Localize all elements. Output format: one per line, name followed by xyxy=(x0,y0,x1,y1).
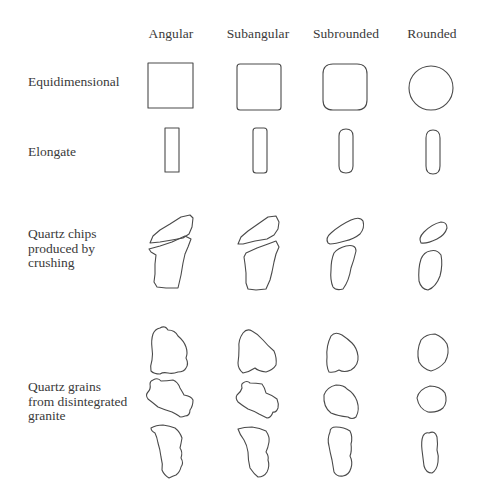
grain-outline-granite-angular xyxy=(151,327,188,374)
grain-outline-equidimensional-angular xyxy=(148,63,193,108)
grain-outline-granite-subangular xyxy=(238,427,269,477)
grain-outline-granite-rounded xyxy=(417,386,446,412)
grain-outline-elongate-subangular xyxy=(253,128,267,173)
grain-outline-equidimensional-rounded xyxy=(409,66,453,110)
grain-outline-chips-angular xyxy=(149,236,191,288)
grain-outline-granite-subrounded xyxy=(324,385,358,419)
grain-outline-chips-angular xyxy=(150,215,193,243)
grain-outline-granite-subrounded xyxy=(328,427,352,476)
grain-outline-granite-rounded xyxy=(418,334,448,371)
grain-outline-elongate-rounded xyxy=(426,130,440,174)
grain-shapes-canvas xyxy=(0,0,484,498)
grain-outline-granite-subangular xyxy=(236,382,278,419)
grain-outline-equidimensional-subangular xyxy=(237,64,281,110)
grain-outline-elongate-angular xyxy=(165,128,179,172)
grain-outline-chips-subangular xyxy=(238,216,279,244)
grain-outline-chips-rounded xyxy=(420,222,447,243)
grain-outline-chips-subrounded xyxy=(331,246,356,290)
grain-outline-granite-angular xyxy=(147,379,194,417)
grain-outline-chips-rounded xyxy=(419,251,442,291)
grain-outline-chips-subrounded xyxy=(327,218,364,244)
grain-outline-granite-angular xyxy=(151,425,183,478)
grain-outline-elongate-subrounded xyxy=(339,129,353,173)
grain-outline-granite-rounded xyxy=(422,432,439,473)
grain-outline-equidimensional-subrounded xyxy=(323,64,367,110)
grain-outline-chips-subangular xyxy=(244,241,279,290)
grain-outline-granite-subrounded xyxy=(327,333,358,372)
grain-outline-granite-subangular xyxy=(238,330,276,373)
